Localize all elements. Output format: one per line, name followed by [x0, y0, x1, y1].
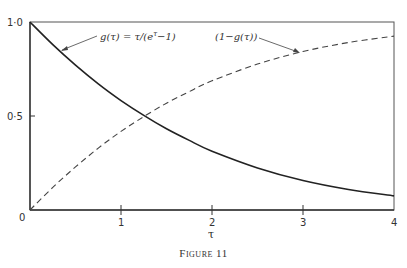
y-tick-label-0.5: 0·5	[7, 111, 23, 122]
series-g-tau-line	[30, 22, 394, 196]
arrowhead-1mg-icon	[293, 48, 300, 53]
x-tick-label-2: 2	[209, 217, 215, 228]
annotation-g-tau: g(τ) = τ/(eτ−1)	[100, 30, 176, 42]
x-tick-label-1: 1	[118, 217, 124, 228]
chart-figure: 0·5 1·0 0 1 2 3 4 τ g(τ) = τ/(eτ−1) (1−g…	[0, 0, 407, 268]
arrowhead-g-icon	[61, 46, 68, 51]
x-tick-label-4: 4	[391, 217, 397, 228]
x-tick-label-3: 3	[300, 217, 306, 228]
annotation-arrow-1mg	[259, 38, 298, 52]
y-tick-label-1.0: 1·0	[7, 17, 23, 28]
figure-caption: Figure 11	[0, 247, 407, 259]
plot-frame	[30, 22, 394, 210]
y-tick-label-0: 0	[19, 212, 25, 223]
annotation-one-minus-g: (1−g(τ))	[215, 31, 257, 42]
series-one-minus-g-line	[30, 36, 394, 210]
x-axis-label: τ	[208, 228, 214, 241]
